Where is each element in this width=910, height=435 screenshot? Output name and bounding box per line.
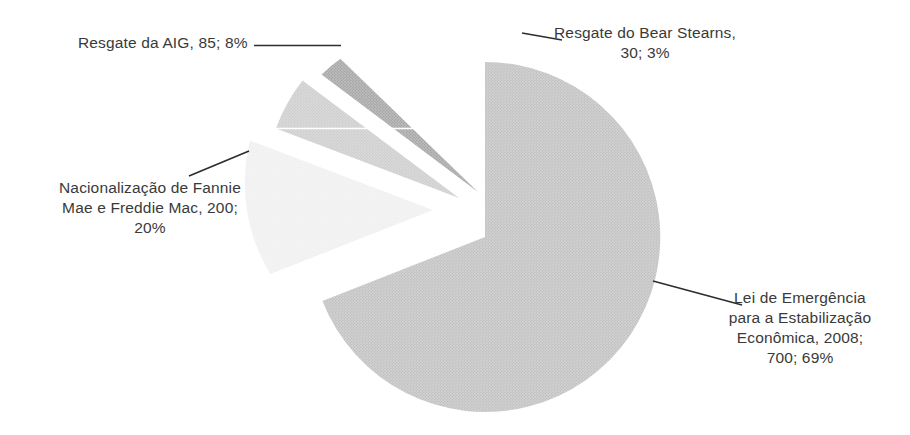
pie-slice-eesa[interactable] [322,62,660,412]
pie-label-fannie-freddie: Nacionalização de Fannie Mae e Freddie M… [30,178,270,238]
pie-label-eesa: Lei de Emergência para a Estabilização E… [700,288,900,368]
pie-label-aig: Resgate da AIG, 85; 8% [78,33,248,53]
pie-slice-eesa-shape[interactable] [322,62,660,412]
pie-label-bear-stearns: Resgate do Bear Stearns, 30; 3% [540,23,750,63]
leader-line-fannie [189,151,249,176]
pie-chart-page: Resgate da AIG, 85; 8% Resgate do Bear S… [0,0,910,435]
